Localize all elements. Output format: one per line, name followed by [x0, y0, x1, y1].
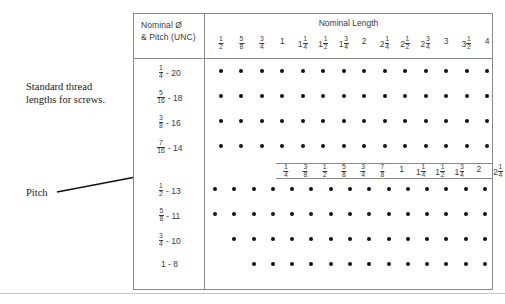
mid-scale-tick: 14 — [283, 164, 288, 179]
availability-dot — [444, 262, 448, 266]
availability-dot — [485, 144, 489, 148]
availability-dot — [290, 212, 294, 216]
availability-dot — [213, 187, 217, 191]
availability-dot — [425, 212, 429, 216]
availability-dot — [290, 237, 294, 241]
availability-dot — [329, 262, 333, 266]
availability-dot — [444, 237, 448, 241]
availability-dot — [280, 144, 284, 148]
availability-dot — [464, 262, 468, 266]
availability-dot — [464, 187, 468, 191]
availability-dot — [219, 119, 223, 123]
availability-dot — [239, 144, 243, 148]
page-bottom-rule — [0, 293, 505, 294]
availability-dot — [232, 187, 236, 191]
top-scale-tick: 4 — [485, 36, 490, 46]
availability-dot — [260, 69, 264, 73]
availability-dot — [290, 262, 294, 266]
availability-dot — [367, 187, 371, 191]
availability-dot — [444, 119, 448, 123]
availability-dot — [321, 69, 325, 73]
availability-dot — [387, 212, 391, 216]
availability-dot — [309, 212, 313, 216]
availability-dot — [403, 69, 407, 73]
availability-dot — [329, 187, 333, 191]
availability-dot — [280, 69, 284, 73]
availability-dot — [321, 94, 325, 98]
availability-dot — [367, 212, 371, 216]
availability-dot — [290, 187, 294, 191]
availability-dot — [403, 119, 407, 123]
mid-scale-tick: 34 — [361, 164, 366, 179]
row-label-thread-size: 516 - 18 — [134, 90, 205, 102]
page-root: Standard thread lengths for screws. Pitc… — [0, 0, 505, 304]
availability-dot — [425, 237, 429, 241]
availability-dot — [383, 69, 387, 73]
dot-row — [205, 183, 492, 195]
mid-scale-tick: 58 — [341, 164, 346, 179]
row-label-column: 14 - 20516 - 1838 - 16716 - 1412 - 1358 … — [134, 59, 205, 290]
availability-dot — [483, 262, 487, 266]
mid-scale-tick: 78 — [380, 164, 385, 179]
availability-dot — [252, 212, 256, 216]
row-label-thread-size: 1 - 8 — [134, 258, 205, 270]
caption-standard-thread-lengths: Standard thread lengths for screws. — [26, 80, 132, 106]
availability-dot — [465, 94, 469, 98]
availability-dot — [406, 212, 410, 216]
availability-dot — [406, 237, 410, 241]
mid-scale-ticks: 143812583478111411213422142122343 — [276, 163, 492, 179]
availability-dot — [239, 119, 243, 123]
availability-dot — [485, 94, 489, 98]
availability-dot — [485, 119, 489, 123]
availability-dot — [348, 187, 352, 191]
availability-dot — [342, 94, 346, 98]
dot-grid-column: 143812583478111411213422142122343 — [205, 59, 492, 290]
availability-dot — [483, 237, 487, 241]
availability-dot — [239, 69, 243, 73]
availability-dot — [271, 262, 275, 266]
mid-scale-tick: 2 — [476, 164, 481, 174]
availability-dot — [362, 69, 366, 73]
row-label-thread-size: 34 - 10 — [134, 233, 205, 245]
header-pitch-unc-label: & Pitch (UNC) — [141, 32, 204, 44]
availability-dot — [444, 144, 448, 148]
availability-dot — [348, 212, 352, 216]
table-header-row: Nominal Ø & Pitch (UNC) Nominal Length 1… — [134, 14, 492, 59]
availability-dot — [383, 94, 387, 98]
availability-dot — [342, 144, 346, 148]
availability-dot — [444, 212, 448, 216]
mid-scale-tick: 214 — [493, 164, 503, 179]
availability-dot — [321, 144, 325, 148]
top-scale-ticks: 1258341114112134221421223433124 — [205, 36, 492, 54]
availability-dot — [362, 144, 366, 148]
availability-dot — [406, 262, 410, 266]
availability-dot — [329, 212, 333, 216]
availability-dot — [219, 94, 223, 98]
availability-dot — [271, 237, 275, 241]
mid-scale-tick: 134 — [455, 164, 465, 179]
availability-dot — [483, 187, 487, 191]
top-scale-tick: 134 — [339, 36, 349, 51]
availability-dot — [239, 94, 243, 98]
top-scale-tick: 2 — [362, 36, 367, 46]
availability-dot — [387, 237, 391, 241]
availability-dot — [444, 187, 448, 191]
availability-dot — [403, 94, 407, 98]
availability-dot — [387, 187, 391, 191]
availability-dot — [424, 69, 428, 73]
availability-dot — [232, 237, 236, 241]
availability-dot — [260, 94, 264, 98]
top-scale-tick: 214 — [380, 36, 390, 51]
header-cell-nominal-pitch: Nominal Ø & Pitch (UNC) — [134, 14, 205, 58]
availability-dot — [367, 237, 371, 241]
availability-dot — [465, 69, 469, 73]
availability-dot — [465, 144, 469, 148]
row-label-thread-size: 12 - 13 — [134, 183, 205, 195]
top-scale-tick: 1 — [280, 36, 285, 46]
availability-dot — [309, 187, 313, 191]
availability-dot — [309, 262, 313, 266]
top-scale-tick: 212 — [400, 36, 410, 51]
availability-dot — [301, 144, 305, 148]
availability-dot — [280, 94, 284, 98]
availability-dot — [342, 69, 346, 73]
